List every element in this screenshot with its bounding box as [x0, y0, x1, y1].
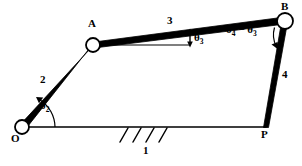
joint-label-O: O	[11, 133, 20, 144]
link-label-2: 2	[40, 74, 46, 85]
joint-label-A: A	[88, 18, 96, 29]
minus-operator: −	[236, 23, 248, 35]
four-bar-linkage-figure: O A B P 1 2 3 4 θ2 θ3 θ4 − θ3	[0, 0, 302, 166]
ground-hatch-mark	[159, 128, 167, 142]
joint-label-B: B	[281, 1, 288, 12]
link-label-1: 1	[143, 145, 149, 156]
angle-theta2-subscript: 2	[46, 105, 50, 114]
angle-theta3-subscript: 3	[200, 37, 204, 46]
link-label-3: 3	[167, 15, 173, 26]
ground-hatch-mark	[146, 128, 154, 142]
ground-hatch-marks	[120, 128, 167, 142]
ground-hatch-mark	[120, 128, 128, 142]
joint-B-pivot-circle	[277, 13, 293, 29]
angle-theta3b-subscript: 3	[253, 29, 257, 38]
angle-label-theta4-minus-theta3: θ4 − θ3	[226, 24, 257, 38]
ground-hatch-mark	[133, 128, 141, 142]
link-2-crank-body	[21, 43, 95, 130]
angle-label-theta3: θ3	[194, 32, 204, 46]
angle-label-theta2: θ2	[40, 100, 50, 114]
link-label-4: 4	[282, 69, 288, 80]
joint-A-pivot-circle	[86, 38, 100, 52]
joint-label-P: P	[261, 129, 268, 140]
